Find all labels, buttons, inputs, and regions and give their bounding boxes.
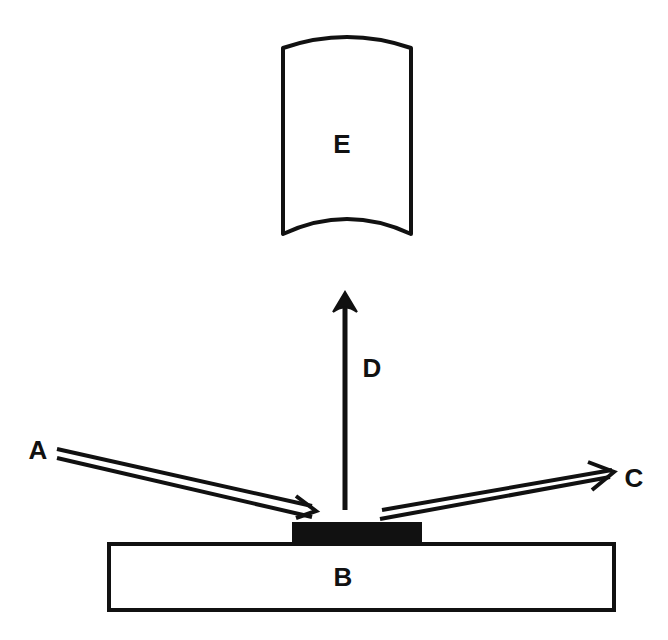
label-c: C xyxy=(625,465,644,491)
label-a: A xyxy=(29,437,48,463)
beam-a xyxy=(57,449,316,518)
diagram-canvas xyxy=(0,0,668,640)
label-e: E xyxy=(333,131,350,157)
beam-c xyxy=(380,462,614,519)
label-b: B xyxy=(334,564,353,590)
label-d: D xyxy=(363,355,382,381)
substrate-b xyxy=(109,544,614,610)
sample-layer xyxy=(292,522,422,546)
arrow-d xyxy=(333,292,357,510)
